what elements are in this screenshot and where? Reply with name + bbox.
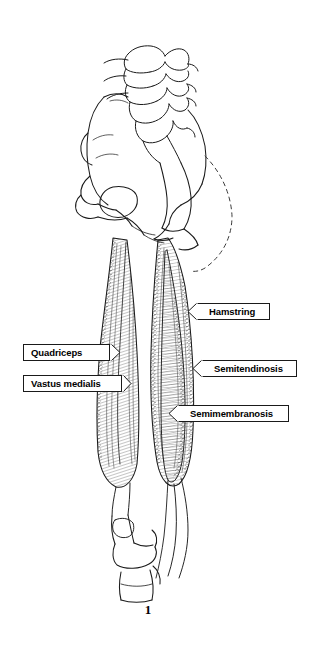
figure-number: 1 (138, 602, 158, 618)
semitendinosis-arrow-icon (192, 360, 203, 377)
dashed-contour-arc (191, 156, 232, 271)
anatomy-figure: Hamstring Quadriceps Semitendinosis Vast… (0, 0, 311, 645)
semimembranosis-arrow-icon (168, 405, 179, 422)
hamstring-arrow-icon (187, 303, 198, 320)
label-hamstring-text: Hamstring (209, 306, 255, 317)
knee-joint (112, 515, 161, 602)
label-semimembranosis-text: Semimembranosis (190, 408, 273, 419)
label-quadriceps[interactable]: Quadriceps (23, 344, 110, 361)
label-semitendinosis-text: Semitendinosis (214, 363, 283, 374)
label-quadriceps-text: Quadriceps (31, 347, 82, 358)
quadriceps-arrow-icon (110, 344, 121, 361)
label-hamstring[interactable]: Hamstring (196, 303, 270, 320)
vastus-medialis-arrow-icon (122, 375, 133, 392)
anatomy-illustration (0, 0, 311, 645)
label-vastus-medialis[interactable]: Vastus medialis (23, 375, 122, 392)
pelvis (76, 94, 206, 250)
label-semitendinosis[interactable]: Semitendinosis (201, 360, 297, 377)
label-vastus-medialis-text: Vastus medialis (31, 378, 101, 389)
label-semimembranosis[interactable]: Semimembranosis (177, 405, 289, 422)
lumbar-spine (104, 46, 198, 163)
